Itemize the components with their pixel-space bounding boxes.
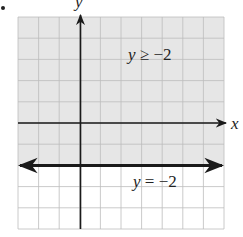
equation-variable: y (131, 172, 141, 191)
inequality-expression: ≥ −2 (136, 45, 172, 64)
inequality-label: y ≥ −2 (126, 45, 171, 64)
inequality-graph: y x y ≥ −2 y = −2 (0, 0, 243, 237)
equation-expression: = −2 (141, 172, 177, 191)
x-axis-label: x (230, 114, 239, 133)
y-axis-label: y (73, 0, 83, 11)
inequality-variable: y (126, 45, 136, 64)
boundary-equation-label: y = −2 (131, 172, 177, 191)
